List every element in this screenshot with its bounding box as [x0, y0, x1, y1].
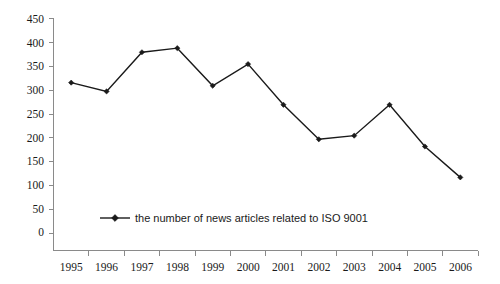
y-tick-label: 50 [33, 203, 45, 215]
x-axis-ticks [89, 251, 478, 257]
y-tick-label: 300 [27, 84, 45, 96]
legend-label: the number of news articles related to I… [135, 212, 368, 224]
x-tick-label: 1996 [95, 261, 118, 273]
y-tick-label: 450 [27, 13, 45, 25]
x-tick-label: 2000 [237, 261, 260, 273]
x-tick-label: 1997 [131, 261, 154, 273]
y-axis-ticks [49, 19, 54, 233]
chart-canvas: 450 400 350 300 250 200 150 100 50 0 [0, 0, 500, 284]
series-markers [69, 46, 463, 180]
x-tick-label: 1995 [60, 261, 83, 273]
data-point-marker [69, 80, 74, 85]
x-tick-label: 2005 [414, 261, 437, 273]
y-tick-label: 350 [27, 60, 45, 72]
x-tick-label: 1999 [201, 261, 224, 273]
y-tick-label: 150 [27, 155, 45, 167]
x-tick-label: 2003 [343, 261, 366, 273]
y-axis-labels: 450 400 350 300 250 200 150 100 50 0 [27, 13, 45, 238]
y-tick-label: 100 [27, 179, 45, 191]
x-tick-label: 2001 [272, 261, 295, 273]
x-tick-label: 2002 [307, 261, 330, 273]
x-tick-label: 2006 [449, 261, 472, 273]
x-tick-label: 1998 [166, 261, 189, 273]
legend-marker-icon [112, 215, 119, 222]
y-tick-label: 250 [27, 108, 45, 120]
line-chart: 450 400 350 300 250 200 150 100 50 0 [0, 0, 500, 284]
y-tick-label: 400 [27, 37, 45, 49]
series-line-news-articles [71, 48, 460, 177]
y-tick-label: 0 [38, 226, 44, 238]
y-tick-label: 200 [27, 132, 45, 144]
x-axis-labels: 1995 1996 1997 1998 1999 2000 2001 2002 … [60, 261, 472, 273]
chart-legend: the number of news articles related to I… [100, 212, 368, 224]
x-tick-label: 2004 [378, 261, 401, 273]
